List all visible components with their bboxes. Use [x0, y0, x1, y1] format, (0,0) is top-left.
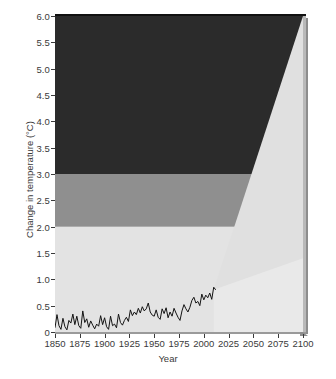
x-axis-tick-mark: [204, 334, 205, 338]
x-axis-tick-mark: [179, 334, 180, 338]
y-axis-tick-label: 3.5: [36, 142, 50, 153]
y-axis-tick-label: 5.5: [36, 37, 50, 48]
x-axis-tick-label: 1950: [144, 338, 165, 349]
y-axis-tick-label: 2.5: [36, 195, 50, 206]
x-axis-tick-label: 2000: [193, 338, 214, 349]
y-axis-tick-label: 1.5: [36, 248, 50, 259]
x-axis-tick-label: 1850: [44, 338, 65, 349]
y-axis-tick-label: 4.5: [36, 90, 50, 101]
x-axis-tick-label: 2075: [268, 338, 289, 349]
x-axis-tick-mark: [154, 334, 155, 338]
x-axis-tick-label: 2050: [243, 338, 264, 349]
x-axis-tick-label: 1925: [119, 338, 140, 349]
x-axis-tick-mark: [129, 334, 130, 338]
y-axis-tick-mark: [51, 332, 55, 333]
y-axis-tick-mark: [51, 227, 55, 228]
x-axis-title: Year: [0, 353, 336, 364]
x-axis-tick-mark: [303, 334, 304, 338]
x-axis-tick-label: 1975: [168, 338, 189, 349]
y-axis-tick-label: 5.0: [36, 63, 50, 74]
plot-area: [55, 16, 303, 332]
y-axis-tick-mark: [51, 253, 55, 254]
y-axis-title-wrap: Change in temperature (°C): [8, 0, 22, 379]
plot-bottom-axis: [55, 332, 306, 334]
y-axis-tick-label: 0: [45, 327, 50, 338]
y-axis-tick-label: 0.5: [36, 300, 50, 311]
y-axis-tick-mark: [51, 148, 55, 149]
y-axis-tick-label: 6.0: [36, 11, 50, 22]
climate-projection-chart: 00.51.01.52.02.53.03.54.04.55.05.56.0 Ch…: [0, 0, 336, 379]
y-axis-tick-mark: [51, 95, 55, 96]
y-axis-tick-label: 3.0: [36, 169, 50, 180]
x-axis-tick-mark: [253, 334, 254, 338]
x-axis-tick-mark: [105, 334, 106, 338]
x-axis-tick-mark: [278, 334, 279, 338]
plot-right-shadow-edge: [306, 18, 308, 334]
risk-bands-and-series: [55, 16, 303, 332]
y-axis-tick-mark: [51, 279, 55, 280]
y-axis-tick-mark: [51, 174, 55, 175]
y-axis-tick-mark: [51, 200, 55, 201]
y-axis-tick-label: 2.0: [36, 221, 50, 232]
x-axis-tick-mark: [229, 334, 230, 338]
x-axis-tick-label: 1900: [94, 338, 115, 349]
x-axis-tick-label: 2025: [218, 338, 239, 349]
y-axis-tick-mark: [51, 16, 55, 17]
y-axis-tick-mark: [51, 121, 55, 122]
y-axis-tick-label: 1.0: [36, 274, 50, 285]
y-axis-title: Change in temperature (°C): [24, 90, 35, 270]
x-axis-tick-label: 2100: [292, 338, 313, 349]
y-axis-tick-mark: [51, 42, 55, 43]
y-axis-tick-mark: [51, 306, 55, 307]
y-axis-tick-label: 4.0: [36, 116, 50, 127]
y-axis-tick-mark: [51, 69, 55, 70]
x-axis-tick-mark: [55, 334, 56, 338]
x-axis-tick-mark: [80, 334, 81, 338]
x-axis-tick-label: 1875: [69, 338, 90, 349]
